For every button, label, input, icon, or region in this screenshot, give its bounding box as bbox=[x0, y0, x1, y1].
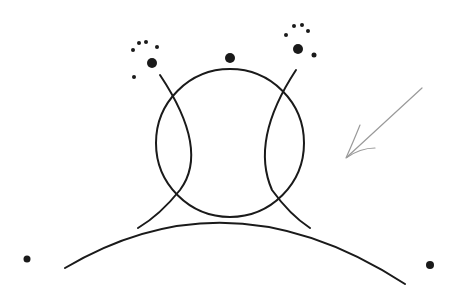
left-dot-cluster bbox=[131, 40, 159, 79]
left-arc bbox=[138, 75, 191, 228]
center-dot bbox=[225, 53, 235, 63]
ground-arc bbox=[65, 223, 405, 284]
right-dot-cluster bbox=[284, 23, 317, 58]
far-left-dot bbox=[24, 256, 31, 263]
arrow-icon bbox=[346, 88, 422, 158]
diagram-svg bbox=[0, 0, 459, 304]
sketch-canvas bbox=[0, 0, 459, 304]
far-right-dot bbox=[426, 261, 434, 269]
central-circle bbox=[156, 69, 304, 217]
